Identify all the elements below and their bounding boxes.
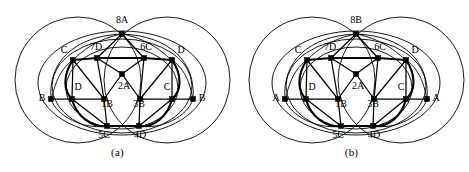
label-8B: 8B: [350, 14, 362, 25]
bold-edge-6c-dright: [144, 58, 172, 60]
label-D-right: D: [177, 44, 184, 55]
label-4D: 4D: [134, 129, 146, 140]
graph-a-canvas: 8A 7D 6C 2A 1B 3B 5C 4D C D D C B B: [0, 0, 235, 150]
bold-edge-group-b: [299, 58, 413, 126]
edge-cleft-dinner: [72, 60, 73, 99]
vertex-5C[interactable]: [339, 124, 344, 129]
vertex-4D[interactable]: [371, 124, 376, 129]
edge-dright-3b: [374, 60, 406, 99]
panel-a: 8A 7D 6C 2A 1B 3B 5C 4D C D D C B B (a): [0, 0, 235, 172]
vertex-B-far-right[interactable]: [191, 97, 196, 102]
vertex-6C[interactable]: [376, 56, 381, 61]
label-8A: 8A: [116, 14, 129, 25]
vertex-D-inner-left[interactable]: [70, 97, 75, 102]
label-C-left: C: [295, 44, 302, 55]
label-1B: 1B: [335, 98, 347, 109]
label-A-far-left: A: [272, 92, 280, 103]
vertex-7D[interactable]: [95, 56, 100, 61]
label-A-far-right: A: [432, 92, 440, 103]
label-D-inner-left: D: [74, 81, 81, 92]
edge-cleft-1b: [307, 60, 338, 99]
label-2A: 2A: [352, 80, 365, 91]
label-C-inner-right: C: [398, 81, 405, 92]
label-7D: 7D: [324, 41, 336, 52]
label-3B: 3B: [133, 98, 145, 109]
label-5C: 5C: [98, 129, 110, 140]
edge-7d-2a: [331, 58, 356, 74]
vertex-C-left[interactable]: [305, 58, 310, 63]
label-3B: 3B: [367, 98, 379, 109]
label-D-right: D: [411, 44, 418, 55]
edge-cleft-1b: [73, 60, 104, 99]
vertex-C-left[interactable]: [71, 58, 76, 63]
edge-7d-2a: [97, 58, 122, 74]
vertex-D-inner-left[interactable]: [304, 97, 309, 102]
label-5C: 5C: [332, 129, 344, 140]
label-C-left: C: [61, 44, 68, 55]
label-B-far-right: B: [199, 92, 206, 103]
vertex-C-inner-right[interactable]: [170, 97, 175, 102]
vertex-2A[interactable]: [120, 72, 125, 77]
vertex-D-right[interactable]: [404, 58, 409, 63]
label-7D: 7D: [90, 41, 102, 52]
graph-b-canvas: 8B 7D 6C 2A 1B 3B 5C 4D C D D C A A: [234, 0, 469, 150]
edge-7d-1b: [97, 58, 104, 99]
label-1B: 1B: [101, 98, 113, 109]
vertex-6C[interactable]: [142, 56, 147, 61]
label-2A: 2A: [118, 80, 131, 91]
vertex-8B[interactable]: [354, 32, 359, 37]
figure-two-panel-graph-embeddings: 8A 7D 6C 2A 1B 3B 5C 4D C D D C B B (a): [0, 0, 469, 172]
label-C-inner-right: C: [164, 81, 171, 92]
label-6C: 6C: [140, 41, 152, 52]
bold-edge-cleft-7d: [73, 58, 97, 60]
caption-panel-b: (b): [234, 146, 469, 158]
vertex-A-far-left[interactable]: [283, 97, 288, 102]
label-D-inner-left: D: [308, 81, 315, 92]
vertex-D-right[interactable]: [170, 58, 175, 63]
bold-edge-cleft-7d: [307, 58, 331, 60]
bold-edge-6c-dright: [378, 58, 406, 60]
vertex-A-far-right[interactable]: [425, 97, 430, 102]
edge-dright-3b: [140, 60, 172, 99]
bold-edge-group-a: [65, 58, 179, 126]
label-6C: 6C: [374, 41, 386, 52]
vertex-B-far-left[interactable]: [49, 97, 54, 102]
vertex-5C[interactable]: [105, 124, 110, 129]
panel-b: 8B 7D 6C 2A 1B 3B 5C 4D C D D C A A (b): [234, 0, 469, 172]
label-4D: 4D: [368, 129, 380, 140]
vertex-4D[interactable]: [137, 124, 142, 129]
vertex-C-inner-right[interactable]: [404, 97, 409, 102]
vertex-2A[interactable]: [354, 72, 359, 77]
label-B-far-left: B: [39, 92, 46, 103]
edge-7d-1b: [331, 58, 338, 99]
edge-cleft-dinner: [306, 60, 307, 99]
vertex-8A[interactable]: [120, 32, 125, 37]
vertex-7D[interactable]: [329, 56, 334, 61]
caption-panel-a: (a): [0, 146, 235, 158]
